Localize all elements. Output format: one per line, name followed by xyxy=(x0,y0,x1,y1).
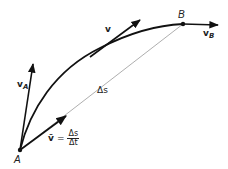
eq-denominator: Δt xyxy=(69,139,78,147)
label-vA: vA xyxy=(17,80,28,91)
eq-lhs: v̄ xyxy=(48,134,54,143)
point-B xyxy=(181,22,185,26)
label-A: A xyxy=(14,155,21,165)
point-A xyxy=(18,148,22,152)
avg-velocity-equation: v̄ = Δs Δt xyxy=(48,130,79,147)
label-B: B xyxy=(178,10,185,20)
eq-sign: = xyxy=(57,134,65,143)
label-delta-s: Δs xyxy=(97,86,108,95)
eq-fraction: Δs Δt xyxy=(67,130,79,147)
label-vB: vB xyxy=(203,29,214,40)
velocity-B-arrow xyxy=(183,24,218,25)
label-v: v xyxy=(105,25,111,34)
velocity-A-arrow xyxy=(20,64,33,150)
velocity-arrow xyxy=(90,20,140,57)
diagram-canvas xyxy=(0,0,228,169)
